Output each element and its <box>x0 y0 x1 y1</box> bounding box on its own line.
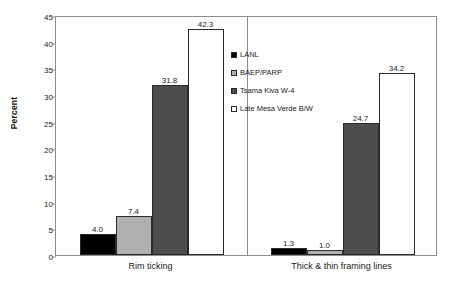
y-tick-label: 25 <box>44 119 53 128</box>
y-tick-label: 45 <box>44 13 53 22</box>
y-tick-label: 15 <box>44 173 53 182</box>
y-tick-label: 30 <box>44 93 53 102</box>
y-tick-label: 0 <box>49 253 53 262</box>
bar <box>188 29 224 255</box>
y-tick-label: 40 <box>44 39 53 48</box>
y-tick-label: 5 <box>49 226 53 235</box>
bar <box>307 250 343 255</box>
legend-swatch-icon <box>231 88 237 94</box>
legend-swatch-icon <box>231 70 237 76</box>
bar <box>116 216 152 255</box>
y-tick-label: 35 <box>44 66 53 75</box>
legend-item: Tsama Kiva W-4 <box>231 82 331 100</box>
bar-value-label: 1.3 <box>283 239 294 248</box>
legend-label: LANL <box>240 51 259 59</box>
chart-legend: LANLBAEP/PARPTsama Kiva W-4Late Mesa Ver… <box>231 46 331 118</box>
bar-value-label: 42.3 <box>198 20 214 29</box>
bar-value-label: 1.0 <box>319 241 330 250</box>
legend-swatch-icon <box>231 52 237 58</box>
y-axis-title: Percent <box>9 78 19 148</box>
bar-value-label: 34.2 <box>389 64 405 73</box>
bar-chart: Percent 051015202530354045 4.07.431.842.… <box>0 0 449 298</box>
legend-label: BAEP/PARP <box>240 69 282 77</box>
bar <box>343 123 379 255</box>
y-tick-label: 20 <box>44 146 53 155</box>
legend-item: Late Mesa Verde B/W <box>231 100 331 118</box>
bar <box>152 85 188 255</box>
x-axis-category-label: Thick & thin framing lines <box>291 261 392 271</box>
legend-item: LANL <box>231 46 331 64</box>
x-axis-category-label: Rim ticking <box>128 261 172 271</box>
bar <box>379 73 415 255</box>
y-tick-label: 10 <box>44 199 53 208</box>
legend-label: Tsama Kiva W-4 <box>240 87 294 95</box>
legend-item: BAEP/PARP <box>231 64 331 82</box>
bar-value-label: 7.4 <box>128 207 139 216</box>
legend-label: Late Mesa Verde B/W <box>240 105 313 113</box>
legend-swatch-icon <box>231 106 237 112</box>
bar <box>80 234 116 255</box>
bar-value-label: 31.8 <box>162 76 178 85</box>
bar-value-label: 4.0 <box>92 225 103 234</box>
bar <box>271 248 307 255</box>
bar-value-label: 24.7 <box>353 114 369 123</box>
